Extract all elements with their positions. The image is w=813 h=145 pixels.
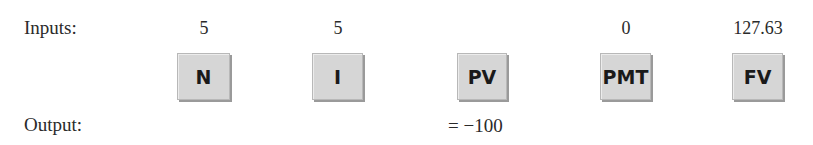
n-key-button[interactable]: N [177,53,230,100]
i-key-button[interactable]: I [312,53,363,100]
pv-key-button[interactable]: PV [457,53,507,100]
input-value-i: 5 [298,18,378,39]
inputs-label: Inputs: [24,17,77,39]
output-label: Output: [24,114,82,136]
pmt-key-button[interactable]: PMT [600,53,651,100]
input-value-fv: 127.63 [718,18,798,39]
output-value-pv: = −100 [448,115,503,137]
input-value-pmt: 0 [586,18,666,39]
fv-key-button[interactable]: FV [732,53,783,100]
input-value-n: 5 [164,18,244,39]
